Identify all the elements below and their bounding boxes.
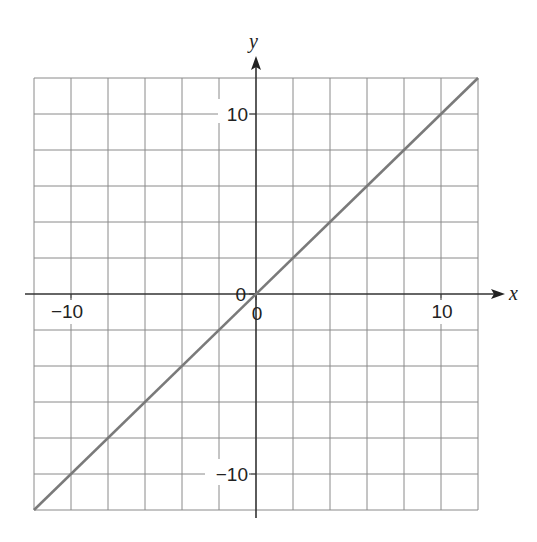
- x-axis-label: x: [508, 282, 518, 304]
- y-axis-label: y: [247, 30, 258, 53]
- x-tick-0: 0: [252, 303, 263, 324]
- y-tick-neg10: −10: [216, 464, 248, 485]
- coordinate-plane: 10 0 −10 −10 0 10 x y: [0, 0, 537, 542]
- x-tick-10: 10: [431, 301, 452, 322]
- y-tick-0: 0: [235, 284, 246, 305]
- y-tick-10: 10: [227, 104, 248, 125]
- y-axis: [249, 56, 261, 518]
- x-tick-neg10: −10: [51, 301, 83, 322]
